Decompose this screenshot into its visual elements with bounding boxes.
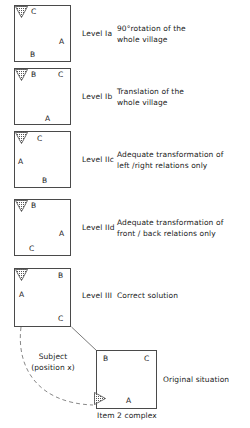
- level-name: Level Ia: [82, 29, 112, 39]
- village-box-original-situation: B C A: [96, 350, 157, 409]
- level-name: Level III: [82, 291, 112, 301]
- village-letter: B: [30, 51, 35, 59]
- level-description: Adequate transformation of front / back …: [117, 218, 249, 240]
- level-description: Adequate transformation of left /right r…: [117, 150, 249, 172]
- village-letter: C: [144, 355, 149, 363]
- village-box-level-ib: B C A: [14, 68, 71, 125]
- village-letter: A: [59, 230, 64, 238]
- level-name: Level Ib: [82, 92, 112, 102]
- down-triangle-icon: [15, 200, 28, 212]
- level-name: Level IIc: [82, 155, 114, 165]
- village-letter: C: [58, 315, 63, 323]
- village-letter: A: [126, 397, 131, 405]
- village-letter: B: [58, 272, 63, 280]
- connector-line: [72, 327, 98, 351]
- village-letter: A: [45, 115, 50, 123]
- subject-position-label: Subject (position x): [17, 352, 89, 374]
- village-box-level-iic: C A B: [14, 131, 71, 188]
- right-triangle-icon: [94, 392, 106, 405]
- village-letter: C: [31, 8, 36, 16]
- village-letter: C: [58, 71, 63, 79]
- original-situation-label: Original situation: [163, 375, 249, 386]
- village-letter: A: [19, 291, 24, 299]
- level-description: Translation of the whole village: [117, 87, 247, 109]
- down-triangle-icon: [15, 69, 28, 81]
- village-letter: C: [29, 245, 34, 253]
- down-triangle-icon: [15, 6, 28, 18]
- level-name: Level IId: [82, 223, 115, 233]
- village-letter: B: [31, 202, 36, 210]
- item-2-complex-diagram: C A B Level Ia 90°rotation of the whole …: [0, 0, 250, 428]
- figure-caption: Item 2 complex: [85, 411, 169, 422]
- village-letter: B: [42, 177, 47, 185]
- down-triangle-icon: [15, 269, 28, 281]
- village-letter: A: [18, 158, 23, 166]
- village-box-level-ia: C A B: [14, 5, 71, 62]
- down-triangle-icon: [15, 132, 28, 144]
- level-description: Correct solution: [117, 291, 249, 302]
- village-letter: B: [31, 71, 36, 79]
- village-box-level-iid: B A C: [14, 199, 71, 256]
- village-letter: B: [103, 355, 108, 363]
- village-letter: C: [37, 135, 42, 143]
- level-description: 90°rotation of the whole village: [117, 24, 247, 46]
- village-letter: A: [59, 38, 64, 46]
- village-box-level-iii: B A C: [14, 268, 71, 327]
